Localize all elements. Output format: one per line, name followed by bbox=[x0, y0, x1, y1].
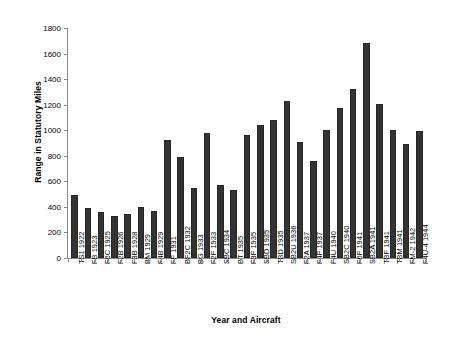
bar-chart: Range in Statutory Miles TS1 1922FB 1923… bbox=[0, 0, 457, 340]
y-axis-tick-label: 1000 bbox=[43, 126, 61, 135]
x-axis-tick bbox=[413, 258, 414, 262]
y-axis-title: Range in Statutory Miles bbox=[33, 37, 43, 227]
x-axis-tick bbox=[267, 258, 268, 262]
y-axis-tick-label: 400 bbox=[48, 202, 61, 211]
y-axis-tick-label: 200 bbox=[48, 228, 61, 237]
x-axis-tick bbox=[293, 258, 294, 262]
x-axis-tick bbox=[346, 258, 347, 262]
x-axis-labels: TS1 1922FB 1923F6C 1925F2B 1926F3B 1928B… bbox=[68, 258, 426, 318]
y-axis-tick bbox=[64, 28, 68, 29]
x-axis-tick bbox=[134, 258, 135, 262]
y-axis-tick bbox=[64, 156, 68, 157]
x-axis-tick bbox=[373, 258, 374, 262]
x-axis-tick bbox=[214, 258, 215, 262]
x-axis-tick bbox=[81, 258, 82, 262]
y-axis-tick bbox=[64, 105, 68, 106]
y-axis-tick bbox=[64, 181, 68, 182]
y-axis-tick-label: 1800 bbox=[43, 24, 61, 33]
bars-layer bbox=[68, 28, 426, 258]
y-axis-tick-label: 1400 bbox=[43, 75, 61, 84]
y-axis-tick-label: 1200 bbox=[43, 100, 61, 109]
x-axis-tick bbox=[227, 258, 228, 262]
y-axis-tick-label: 800 bbox=[48, 151, 61, 160]
y-axis-tick bbox=[64, 54, 68, 55]
x-axis-tick bbox=[240, 258, 241, 262]
x-axis-tick bbox=[399, 258, 400, 262]
x-axis-title: Year and Aircraft bbox=[67, 315, 425, 325]
x-axis-tick bbox=[386, 258, 387, 262]
x-axis-tick bbox=[148, 258, 149, 262]
x-axis-tick bbox=[187, 258, 188, 262]
x-axis-tick bbox=[201, 258, 202, 262]
x-axis-tick bbox=[161, 258, 162, 262]
y-axis-tick-label: 0 bbox=[57, 254, 61, 263]
x-axis-tick bbox=[426, 258, 427, 262]
x-axis-tick bbox=[68, 258, 69, 262]
x-axis-tick bbox=[108, 258, 109, 262]
y-axis-tick bbox=[64, 232, 68, 233]
y-axis-tick bbox=[64, 207, 68, 208]
plot-area: TS1 1922FB 1923F6C 1925F2B 1926F3B 1928B… bbox=[67, 28, 426, 259]
y-axis-tick-label: 1600 bbox=[43, 49, 61, 58]
y-axis-tick bbox=[64, 79, 68, 80]
x-axis-tick bbox=[95, 258, 96, 262]
y-axis-tick-label: 600 bbox=[48, 177, 61, 186]
x-axis-tick bbox=[320, 258, 321, 262]
x-axis-tick bbox=[333, 258, 334, 262]
x-axis-tick bbox=[174, 258, 175, 262]
x-axis-tick bbox=[280, 258, 281, 262]
x-axis-tick bbox=[121, 258, 122, 262]
x-axis-tick bbox=[360, 258, 361, 262]
x-axis-tick bbox=[307, 258, 308, 262]
y-axis-tick bbox=[64, 130, 68, 131]
x-axis-tick bbox=[254, 258, 255, 262]
